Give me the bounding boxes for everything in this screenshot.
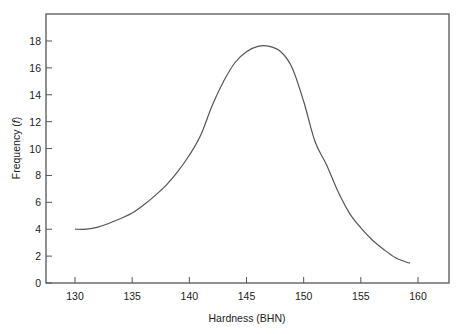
plot-frame — [46, 14, 449, 283]
y-axis-title: Frequency (f) — [10, 117, 22, 179]
x-tick-label: 160 — [409, 290, 427, 302]
y-tick-label: 12 — [29, 116, 41, 128]
x-tick-label: 150 — [295, 290, 313, 302]
x-tick-label: 130 — [66, 290, 84, 302]
x-tick-label: 155 — [352, 290, 370, 302]
x-tick-label: 140 — [181, 290, 199, 302]
y-tick-label: 10 — [29, 143, 41, 155]
x-axis-title: Hardness (BHN) — [208, 312, 285, 324]
y-axis-title-close: ) — [10, 117, 22, 121]
y-axis-title-text: Frequency ( — [10, 123, 22, 180]
y-tick-label: 18 — [29, 35, 41, 47]
y-tick-label: 2 — [35, 250, 41, 262]
y-tick-label: 14 — [29, 89, 41, 101]
x-tick-label: 145 — [238, 290, 256, 302]
x-tick-label: 135 — [123, 290, 141, 302]
frequency-curve-chart: 024681012141618 130135140145150155160 Ha… — [0, 0, 463, 334]
y-tick-label: 8 — [35, 169, 41, 181]
y-tick-label: 4 — [35, 223, 41, 235]
y-axis-ticks: 024681012141618 — [29, 35, 52, 289]
x-axis-ticks: 130135140145150155160 — [66, 277, 427, 302]
y-tick-label: 6 — [35, 196, 41, 208]
y-tick-label: 0 — [35, 277, 41, 289]
y-tick-label: 16 — [29, 62, 41, 74]
frequency-curve — [75, 46, 410, 263]
